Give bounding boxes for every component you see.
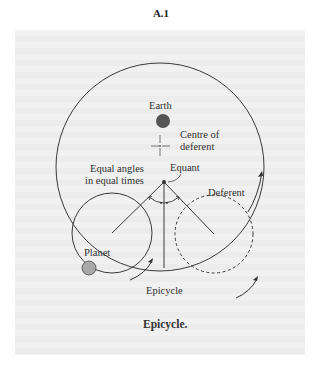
centre-label-line2: deferent (180, 141, 214, 152)
planet-label: Planet (84, 247, 110, 258)
epicycle-arrow-right (236, 279, 257, 298)
deferent-arrow (248, 173, 262, 212)
epicycle-diagram: Earth Centre of deferent Equant Equal an… (0, 0, 322, 373)
earth-icon (156, 114, 170, 128)
radius-right (164, 182, 214, 234)
epicycle-label: Epicycle (146, 285, 183, 296)
equant-label: Equant (170, 162, 200, 173)
earth-label: Earth (149, 100, 172, 111)
deferent-label: Deferent (208, 187, 245, 198)
figure-caption: Epicycle. (143, 318, 188, 331)
equal-angles-label-line2: in equal times (85, 175, 144, 186)
deferent-circle (56, 63, 264, 271)
radius-left (112, 182, 164, 233)
centre-label-line1: Centre of (180, 129, 220, 140)
planet-icon (82, 261, 96, 275)
equal-angles-label-line1: Equal angles (90, 163, 144, 174)
